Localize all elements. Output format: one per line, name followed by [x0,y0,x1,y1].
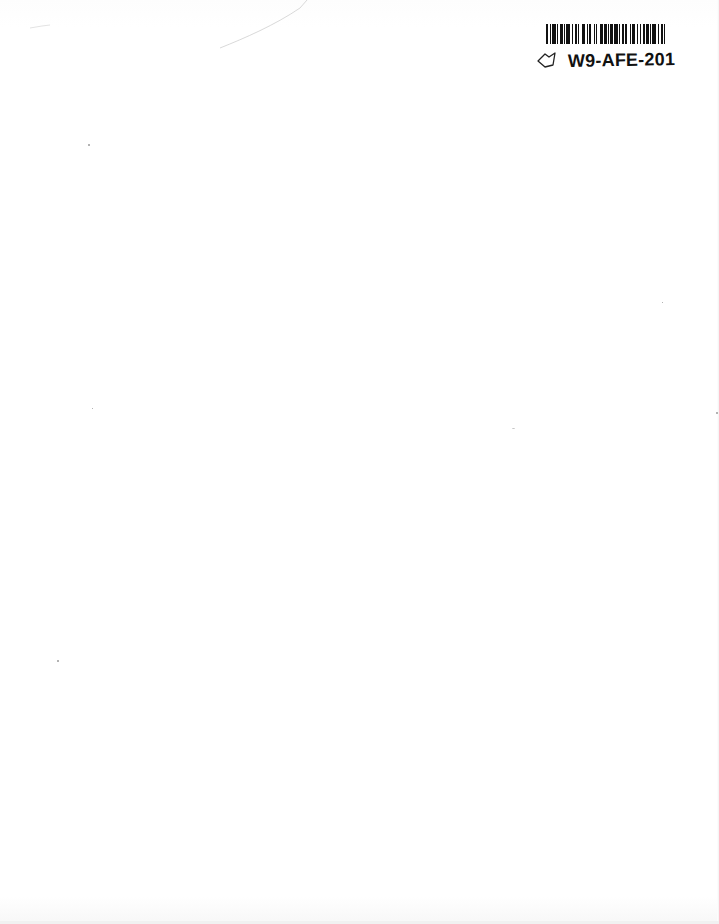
pencil-stroke-mark [215,0,315,50]
speck [512,428,515,429]
scanned-page: W9-AFE-201 [0,0,719,924]
speck [662,302,663,303]
speck [57,660,59,662]
barcode-label: W9-AFE-201 [536,20,708,75]
faint-mark-top-left [28,20,58,32]
barcode-caption: W9-AFE-201 [536,48,708,72]
bookmark-outline-icon [536,51,558,69]
barcode-gap [665,24,666,44]
speck [716,412,718,414]
speck [88,144,90,146]
barcode-code-text: W9-AFE-201 [568,49,675,72]
barcode [546,24,708,44]
speck [92,408,93,409]
